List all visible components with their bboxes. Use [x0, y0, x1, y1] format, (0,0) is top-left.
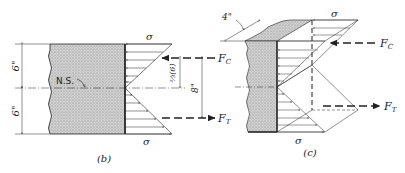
width-dim-label-c: 4" [221, 12, 232, 22]
beam-section-b [49, 44, 126, 134]
force-compression-label-b: FC [217, 52, 232, 66]
sigma-bottom-c: σ [295, 135, 303, 146]
sigma-top-c: σ [331, 8, 339, 19]
centroid-dim-label: ⅔(6) [168, 63, 177, 82]
sigma-top-b: σ [146, 31, 154, 42]
tension-stress-arrows-b [125, 95, 171, 134]
lever-arm-dim-label: 8" [190, 83, 200, 93]
figure-b: 6" 6" N.S. σ σ FC [10, 31, 232, 164]
caption-b: (b) [97, 153, 111, 164]
neutral-surface-label: N.S. [56, 76, 74, 86]
caption-c: (c) [303, 147, 317, 158]
tension-stress-arrows-c [277, 94, 324, 132]
compression-stress-arrows-b [126, 44, 172, 82]
dim-bottom-label: 6" [10, 106, 21, 117]
dim-top-label: 6" [10, 61, 21, 72]
stress-diagram: 6" 6" N.S. σ σ FC [0, 0, 405, 173]
figure-c: 4" [220, 8, 398, 158]
sigma-bottom-b: σ [143, 136, 151, 147]
beam-section-c [245, 41, 277, 132]
force-tension-label-b: FT [217, 112, 232, 126]
force-compression-label-c: FC [379, 37, 394, 51]
force-tension-label-c: FT [383, 100, 398, 114]
